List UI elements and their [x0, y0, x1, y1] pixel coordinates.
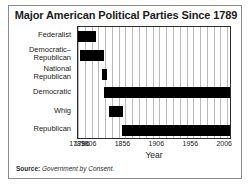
source-title: Government by Consent.	[42, 165, 114, 172]
x-tick-1956: 1956	[183, 140, 199, 147]
bar-republican	[122, 125, 231, 136]
gridline	[132, 27, 133, 138]
x-tick-1906: 1906	[149, 140, 165, 147]
gridline	[105, 27, 106, 138]
gridline	[153, 27, 154, 138]
x-axis-title: Year	[77, 150, 231, 160]
gridline	[166, 27, 167, 138]
plot-area	[77, 26, 231, 139]
gridline	[173, 27, 174, 138]
gridline	[125, 27, 126, 138]
category-label-democratic-republican: Democratic–Republican	[7, 46, 71, 63]
chart-figure: Major American Political Parties Since 1…	[8, 5, 242, 179]
gridline	[85, 27, 86, 138]
category-label-national-republican: NationalRepublican	[7, 65, 71, 82]
gridline	[214, 27, 215, 138]
gridline	[187, 27, 188, 138]
x-tick-1806: 1806	[81, 140, 97, 147]
category-label-whig: Whig	[7, 107, 71, 116]
gridline	[227, 27, 228, 138]
gridline	[220, 27, 221, 138]
bar-national-republican	[102, 69, 107, 80]
chart-title: Major American Political Parties Since 1…	[9, 9, 243, 21]
gridline	[139, 27, 140, 138]
category-axis-labels: FederalistDemocratic–RepublicanNationalR…	[9, 26, 75, 139]
bar-democratic	[104, 87, 231, 98]
gridline	[207, 27, 208, 138]
gridline	[98, 27, 99, 138]
bar-whig	[109, 106, 124, 117]
source-label: Source:	[16, 165, 40, 172]
gridline	[92, 27, 93, 138]
x-tick-2006: 2006	[216, 140, 232, 147]
gridline	[200, 27, 201, 138]
gridline	[159, 27, 160, 138]
gridline	[119, 27, 120, 138]
gridline	[78, 27, 79, 138]
bar-democratic-republican	[80, 50, 104, 61]
source-note: Source: Government by Consent.	[16, 165, 114, 172]
gridline	[112, 27, 113, 138]
category-label-democratic: Democratic	[7, 88, 71, 97]
gridline	[180, 27, 181, 138]
x-tick-1856: 1856	[115, 140, 131, 147]
gridline	[146, 27, 147, 138]
category-label-federalist: Federalist	[7, 31, 71, 40]
category-label-republican: Republican	[7, 125, 71, 134]
bar-federalist	[78, 31, 96, 42]
gridline	[193, 27, 194, 138]
